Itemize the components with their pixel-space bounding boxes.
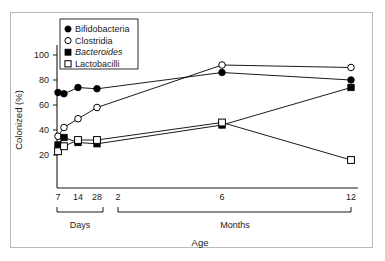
- y-tick-label: 40: [39, 125, 49, 135]
- data-point-marker: [94, 137, 101, 144]
- y-tick-label: 20: [39, 150, 49, 160]
- axis-group-months-label: Months: [220, 220, 250, 230]
- series-lactobacilli: [55, 119, 355, 163]
- legend-marker-filled-square: [65, 49, 71, 55]
- chart-plot: 10080604020 Colonized (%) 714282612 Days…: [0, 0, 385, 261]
- x-tick-label: 14: [73, 192, 83, 202]
- series-line: [58, 123, 351, 161]
- x-tick-label: 12: [346, 192, 356, 202]
- data-point-marker: [94, 104, 101, 111]
- data-point-marker: [61, 134, 67, 140]
- x-axis-label: Age: [192, 237, 209, 248]
- y-tick-label: 60: [39, 100, 49, 110]
- data-point-marker: [61, 124, 68, 131]
- y-axis-label: Colonized (%): [13, 90, 24, 150]
- data-point-marker: [219, 69, 226, 76]
- legend-marker-filled-circle: [65, 26, 71, 32]
- legend-label-lactobacilli: Lactobacilli: [75, 59, 120, 69]
- data-point-marker: [61, 90, 68, 97]
- figure-container: 10080604020 Colonized (%) 714282612 Days…: [0, 0, 385, 261]
- data-point-marker: [219, 62, 226, 69]
- data-point-marker: [61, 143, 68, 150]
- data-point-marker: [75, 84, 82, 91]
- data-point-marker: [55, 89, 62, 96]
- data-point-marker: [219, 119, 226, 126]
- data-point-marker: [348, 157, 355, 164]
- x-tick-label: 7: [55, 192, 60, 202]
- data-point-marker: [75, 115, 82, 122]
- x-tick-label: 28: [92, 192, 102, 202]
- legend-label-bacteroides: Bacteroides: [75, 47, 123, 57]
- data-series-layer: [55, 62, 355, 164]
- x-tick-label: 6: [219, 192, 224, 202]
- y-tick-label: 80: [39, 75, 49, 85]
- series-line: [58, 73, 351, 94]
- legend-marker-open-square: [65, 61, 71, 67]
- y-axis-ticks: 10080604020: [34, 50, 57, 160]
- legend: BifidobacteriaClostridiaBacteroidesLacto…: [60, 19, 138, 69]
- series-line: [58, 88, 351, 146]
- data-point-marker: [55, 133, 62, 140]
- data-point-marker: [75, 137, 82, 144]
- data-point-marker: [348, 84, 354, 90]
- legend-marker-open-circle: [65, 38, 71, 44]
- axis-group-days-label: Days: [70, 220, 91, 230]
- data-point-marker: [348, 77, 355, 84]
- series-bifidobacteria: [55, 69, 355, 97]
- x-tick-label: 2: [115, 192, 120, 202]
- y-tick-label: 100: [34, 50, 49, 60]
- data-point-marker: [348, 64, 355, 71]
- axis-group-brackets: [57, 207, 351, 212]
- x-axis-ticks: 714282612: [55, 192, 356, 202]
- data-point-marker: [94, 85, 101, 92]
- legend-label-bifidobacteria: Bifidobacteria: [75, 24, 130, 34]
- legend-label-clostridia: Clostridia: [75, 36, 113, 46]
